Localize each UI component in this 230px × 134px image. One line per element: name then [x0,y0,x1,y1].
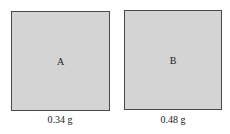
sample-b-square: B [124,10,222,110]
sample-a-mass: 0.34 g [10,114,110,125]
sample-b-label: B [170,55,177,66]
sample-b-mass: 0.48 g [123,114,223,125]
sample-a-square: A [11,11,110,111]
sample-a-label: A [57,56,64,67]
